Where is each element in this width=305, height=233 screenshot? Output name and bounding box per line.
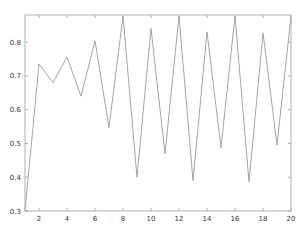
x-tick-label: 6 [93, 215, 98, 223]
plot-frame [25, 15, 291, 211]
line-chart: 0.30.40.50.60.70.8 2468101214161820 [0, 0, 305, 233]
x-tick-label: 16 [231, 215, 240, 223]
x-tick-label: 8 [121, 215, 125, 223]
y-tick-label: 0.5 [10, 140, 21, 148]
y-axis: 0.30.40.50.60.70.8 [10, 39, 291, 216]
x-tick-label: 14 [203, 215, 212, 223]
x-tick-label: 2 [37, 215, 41, 223]
x-tick-label: 18 [259, 215, 268, 223]
x-tick-label: 20 [287, 215, 296, 223]
x-tick-label: 4 [65, 215, 70, 223]
data-line [25, 16, 291, 211]
y-tick-label: 0.8 [10, 39, 21, 47]
x-tick-label: 12 [175, 215, 184, 223]
x-tick-label: 10 [147, 215, 156, 223]
x-axis: 2468101214161820 [37, 15, 296, 223]
y-tick-label: 0.7 [10, 72, 21, 80]
y-tick-label: 0.3 [10, 208, 21, 216]
y-tick-label: 0.4 [10, 174, 22, 182]
y-tick-label: 0.6 [10, 106, 22, 114]
